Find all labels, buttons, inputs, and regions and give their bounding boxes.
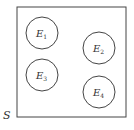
set-label: E1	[35, 28, 47, 40]
set-e4: E4	[83, 76, 115, 108]
set-e2: E2	[83, 32, 115, 64]
set-e3: E3	[26, 59, 58, 91]
set-label: E3	[35, 70, 47, 82]
set-label: E4	[92, 87, 104, 99]
set-e1: E1	[26, 17, 58, 49]
venn-diagram: S E1 E2 E3 E4	[0, 0, 134, 130]
set-label: E2	[92, 43, 104, 55]
sample-space-label: S	[3, 109, 11, 122]
